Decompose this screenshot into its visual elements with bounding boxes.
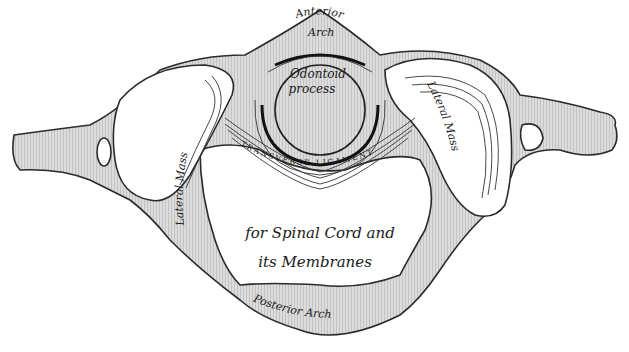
atlas-diagram: Anterior Arch Odontoid process TRANSVERS…: [0, 0, 629, 352]
label-odontoid: Odontoid: [290, 67, 346, 81]
label-process: process: [289, 82, 336, 96]
atlas-illustration: Anterior Arch Odontoid process TRANSVERS…: [0, 0, 629, 352]
label-anterior-arch-2: Arch: [307, 26, 334, 39]
label-foramen-line1: for Spinal Cord and: [244, 224, 395, 242]
transverse-foramen-left: [97, 138, 111, 166]
label-foramen-line2: its Membranes: [258, 253, 372, 271]
transverse-foramen-right: [521, 124, 543, 150]
